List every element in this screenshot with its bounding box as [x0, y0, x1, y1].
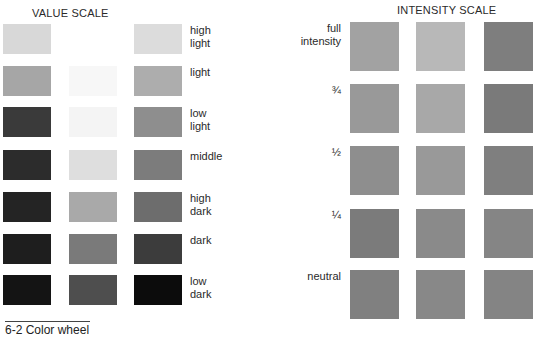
value-swatch	[134, 150, 182, 180]
value-swatch	[3, 192, 51, 222]
value-swatch	[3, 150, 51, 180]
value-swatch	[3, 234, 51, 264]
intensity-swatch	[350, 22, 399, 71]
intensity-scale-title: INTENSITY SCALE	[397, 4, 496, 16]
caption-rule	[5, 321, 90, 322]
intensity-swatch	[416, 270, 465, 319]
intensity-swatch	[484, 84, 533, 133]
value-swatch	[134, 275, 182, 305]
value-swatch	[134, 192, 182, 222]
value-swatch	[134, 234, 182, 264]
value-label: low dark	[190, 275, 211, 301]
intensity-label: full intensity	[261, 22, 341, 48]
value-swatch	[69, 107, 117, 137]
value-swatch	[69, 192, 117, 222]
value-swatch	[69, 24, 117, 54]
value-swatch	[69, 66, 117, 96]
intensity-swatch	[484, 209, 533, 258]
value-swatch	[3, 66, 51, 96]
intensity-swatch	[416, 146, 465, 195]
figure-caption: 6-2 Color wheel	[5, 323, 89, 337]
value-label: high light	[190, 24, 211, 50]
value-swatch	[69, 234, 117, 264]
value-swatch	[69, 275, 117, 305]
value-scale-title: VALUE SCALE	[32, 7, 109, 19]
value-label: light	[190, 66, 210, 79]
intensity-swatch	[484, 270, 533, 319]
value-swatch	[134, 24, 182, 54]
intensity-swatch	[416, 22, 465, 71]
value-label: middle	[190, 150, 222, 163]
value-label: high dark	[190, 192, 211, 218]
value-swatch	[3, 24, 51, 54]
value-swatch	[134, 66, 182, 96]
value-swatch	[3, 275, 51, 305]
value-label: low light	[190, 107, 210, 133]
value-swatch	[134, 107, 182, 137]
intensity-label: neutral	[261, 270, 341, 283]
intensity-label: ¼	[261, 209, 341, 222]
intensity-label: ¾	[261, 84, 341, 97]
intensity-swatch	[416, 209, 465, 258]
value-swatch	[3, 107, 51, 137]
value-label: dark	[190, 234, 211, 247]
intensity-swatch	[350, 84, 399, 133]
value-swatch	[69, 150, 117, 180]
intensity-label: ½	[261, 146, 341, 159]
intensity-swatch	[416, 84, 465, 133]
intensity-swatch	[484, 146, 533, 195]
intensity-swatch	[484, 22, 533, 71]
intensity-swatch	[350, 270, 399, 319]
intensity-swatch	[350, 146, 399, 195]
intensity-swatch	[350, 209, 399, 258]
